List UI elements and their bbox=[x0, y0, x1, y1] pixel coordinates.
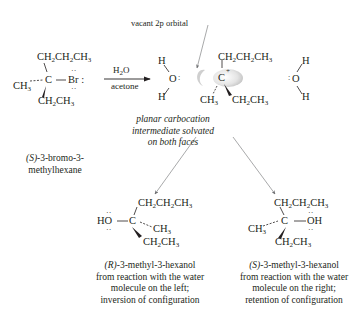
cation-right-group: CH2CH3 bbox=[232, 95, 268, 107]
product-left-center-carbon: C bbox=[129, 216, 136, 227]
water-left-h-bottom: H bbox=[158, 92, 166, 103]
water-right-h-bottom: H bbox=[302, 92, 310, 103]
positive-charge: + bbox=[226, 68, 230, 75]
vacant-orbital-label: vacant 2p orbital bbox=[131, 19, 188, 28]
product-right-center-carbon: C bbox=[281, 216, 288, 227]
starting-bottom-group: CH2CH3 bbox=[38, 96, 74, 108]
water-left-oxygen: O bbox=[169, 74, 177, 85]
starting-left-group: CH3 bbox=[13, 81, 31, 93]
product-right-methyl: CH3 bbox=[248, 224, 266, 236]
lone-pair: ·· bbox=[71, 67, 76, 75]
product-right-top-group: CH2CH2CH3 bbox=[274, 198, 328, 210]
intermediate-caption: planar carbocation intermediate solvated… bbox=[108, 114, 238, 149]
water-right-h-top: H bbox=[302, 56, 310, 67]
lone-pair: ·· bbox=[71, 85, 76, 93]
lone-pair: ·· bbox=[106, 209, 111, 217]
starting-top-group: CH2CH2CH3 bbox=[37, 52, 91, 64]
lone-pair: : bbox=[288, 74, 290, 82]
product-left-bottom-group: CH2CH3 bbox=[143, 237, 179, 249]
lone-pair: ·· bbox=[308, 226, 313, 234]
water-left-h-top: H bbox=[158, 56, 166, 67]
lone-pair: ·· bbox=[308, 209, 313, 217]
bond bbox=[44, 63, 47, 72]
product-right-bottom-group: CH2CH3 bbox=[275, 237, 311, 249]
cation-center-carbon: C bbox=[218, 73, 225, 84]
starting-center-carbon: C bbox=[45, 75, 52, 86]
water-right-oxygen: O bbox=[292, 74, 300, 85]
product-left-methyl: CH3 bbox=[153, 224, 171, 236]
reagent-water: H2O bbox=[113, 66, 130, 77]
product-right-caption: (S)-3-methyl-3-hexanol from reaction wit… bbox=[232, 260, 356, 306]
lone-pair: : bbox=[178, 74, 180, 82]
product-left-caption: (R)-3-methyl-3-hexanol from reaction wit… bbox=[88, 260, 212, 306]
reagent-acetone: acetone bbox=[111, 82, 138, 91]
cation-top-group: CH2CH2CH3 bbox=[218, 52, 272, 64]
cation-left-group: CH3 bbox=[200, 95, 218, 107]
lone-pair: ·· bbox=[106, 226, 111, 234]
product-left-top-group: CH2CH2CH3 bbox=[138, 198, 192, 210]
starting-material-name: (S)-3-bromo-3- methylhexane bbox=[20, 153, 90, 176]
